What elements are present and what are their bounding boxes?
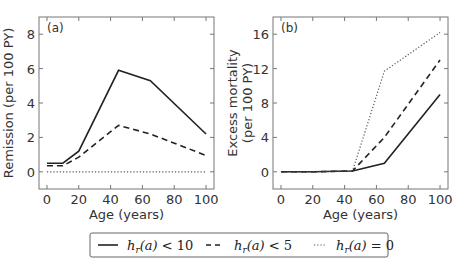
x-tick-label: 80 (166, 192, 183, 207)
x-axis-label: Age (years) (89, 207, 164, 222)
panel-a: 02040608010002468(a)Age (years)Remission… (1, 17, 218, 222)
y-axis-label: Remission (per 100 PY) (1, 28, 16, 179)
panel-label: (a) (47, 21, 64, 35)
series-solid (281, 94, 440, 171)
x-tick-label: 20 (304, 192, 321, 207)
y-tick-label: 0 (261, 165, 269, 180)
legend: hr(a) < 10hr(a) < 5hr(a) = 0 (90, 233, 394, 257)
y-axis-label: Excess mortality(per 100 PY) (225, 49, 255, 157)
x-tick-label: 100 (194, 192, 219, 207)
y-tick-label: 8 (27, 27, 35, 42)
x-tick-label: 40 (336, 192, 353, 207)
y-tick-label: 8 (261, 96, 269, 111)
series-dashed (281, 60, 440, 172)
x-tick-label: 20 (70, 192, 87, 207)
x-tick-label: 60 (368, 192, 385, 207)
x-tick-label: 0 (277, 192, 285, 207)
y-tick-label: 0 (27, 165, 35, 180)
y-tick-label: 16 (252, 27, 269, 42)
figure: 02040608010002468(a)Age (years)Remission… (0, 0, 466, 268)
y-tick-label: 6 (27, 62, 35, 77)
x-tick-label: 100 (428, 192, 453, 207)
x-tick-label: 0 (43, 192, 51, 207)
series-dotted (281, 32, 440, 171)
panel-label: (b) (281, 21, 298, 35)
x-tick-label: 40 (102, 192, 119, 207)
y-tick-label: 2 (27, 130, 35, 145)
axes-frame (39, 17, 214, 189)
x-tick-label: 60 (134, 192, 151, 207)
y-tick-label: 4 (261, 130, 269, 145)
panel-b: 0204060801000481216(b)Age (years)Excess … (225, 17, 452, 222)
series-dashed (47, 125, 206, 165)
x-tick-label: 80 (400, 192, 417, 207)
x-axis-label: Age (years) (323, 207, 398, 222)
series-solid (47, 70, 206, 163)
y-tick-label: 4 (27, 96, 35, 111)
